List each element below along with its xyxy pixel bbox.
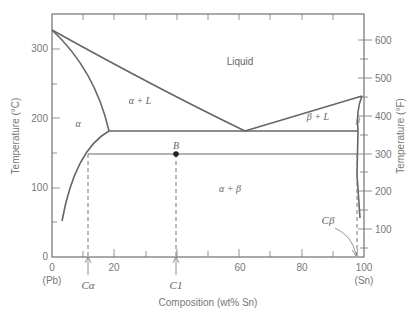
y-right-tick-300: 300 (375, 149, 392, 160)
region-alpha-liquid: α + L (129, 95, 152, 106)
region-alpha-beta: α + β (219, 183, 241, 194)
label-c-alpha: Cα (81, 279, 94, 291)
c-beta-arrow (335, 228, 356, 254)
y-right-tick-600: 600 (375, 35, 392, 46)
solvus-alpha (62, 131, 109, 221)
solidus-beta (358, 96, 363, 131)
region-liquid: Liquid (227, 56, 254, 67)
plot-frame (52, 14, 364, 257)
y-right-tick-200: 200 (375, 186, 392, 197)
y-right-axis-title: Temperature (°F) (395, 98, 406, 174)
left-ticks (52, 49, 60, 222)
region-beta: β (355, 116, 360, 125)
label-point-b: B (173, 140, 179, 151)
y-left-tick-0: 0 (42, 251, 48, 262)
x-tick-80: 80 (296, 262, 308, 273)
c1-arrow (173, 257, 179, 275)
label-c1: C1 (170, 279, 183, 291)
region-beta-liquid: β + L (306, 111, 330, 122)
bottom-ticks (83, 249, 333, 257)
top-ticks (83, 14, 333, 20)
liquidus-left (52, 30, 245, 131)
y-left-tick-300: 300 (31, 43, 48, 54)
c-alpha-arrow (85, 257, 91, 275)
region-alpha: α (75, 118, 81, 129)
y-right-tick-100: 100 (375, 224, 392, 235)
x-axis-title: Composition (wt% Sn) (159, 297, 258, 308)
y-left-tick-100: 100 (31, 182, 48, 193)
x-end-sn: (Sn) (355, 275, 374, 286)
phase-diagram: 300 200 100 0 600 500 400 300 200 100 0 … (0, 0, 415, 316)
x-tick-60: 60 (234, 262, 246, 273)
y-left-axis-title: Temperature (°C) (10, 98, 21, 175)
y-right-tick-500: 500 (375, 73, 392, 84)
y-left-tick-200: 200 (31, 113, 48, 124)
liquidus-right (245, 96, 362, 131)
label-c-beta: Cβ (322, 214, 335, 226)
x-tick-100: 100 (356, 262, 373, 273)
x-end-pb: (Pb) (43, 275, 62, 286)
point-b-marker (173, 151, 179, 157)
x-tick-0: 0 (49, 262, 55, 273)
x-tick-20: 20 (108, 262, 120, 273)
y-right-tick-400: 400 (375, 111, 392, 122)
